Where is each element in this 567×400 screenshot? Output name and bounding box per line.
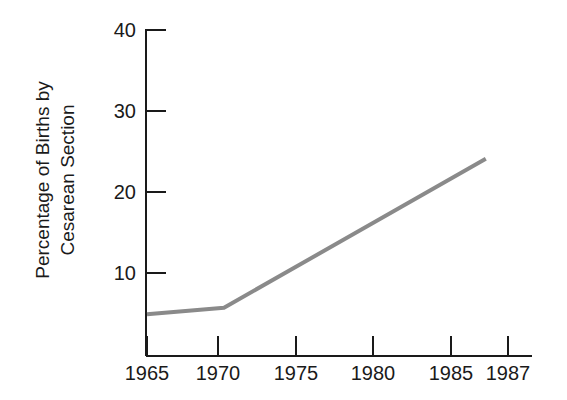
data-line-cesarean-percentage	[147, 159, 486, 314]
x-tick-label-1965: 1965	[117, 363, 177, 383]
chart-figure: Percentage of Births by Cesarean Section…	[0, 0, 567, 400]
y-tick-label-10: 10	[76, 263, 136, 283]
y-tick-label-40: 40	[76, 20, 136, 40]
x-tick-label-1975: 1975	[266, 363, 326, 383]
x-tick-label-1980: 1980	[343, 363, 403, 383]
y-tick-label-20: 20	[76, 182, 136, 202]
x-tick-label-1970: 1970	[188, 363, 248, 383]
x-tick-label-1987: 1987	[478, 363, 538, 383]
y-tick-label-30: 30	[76, 101, 136, 121]
x-tick-label-1985: 1985	[421, 363, 481, 383]
